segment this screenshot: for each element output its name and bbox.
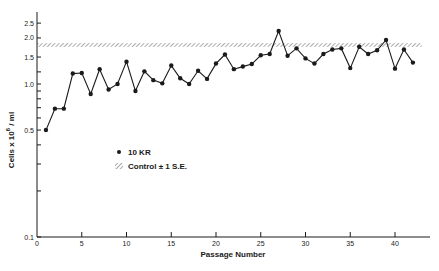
- legend-label-control: Control ± 1 S.E.: [128, 162, 187, 171]
- x-tick-label: 40: [391, 240, 399, 247]
- x-tick-label: 20: [212, 240, 220, 247]
- x-tick-label: 10: [123, 240, 131, 247]
- x-tick-label: 30: [302, 240, 310, 247]
- chart-svg: 0.10.51.01.52.02.50510152025303540 10 KR…: [0, 0, 439, 271]
- data-point: [151, 78, 155, 82]
- data-point: [348, 66, 352, 70]
- data-point: [89, 92, 93, 96]
- data-point: [196, 69, 200, 73]
- data-point: [62, 106, 66, 110]
- data-point: [80, 71, 84, 75]
- control-band: [37, 43, 422, 47]
- data-point: [366, 52, 370, 56]
- data-point: [71, 71, 75, 75]
- data-point: [402, 47, 406, 51]
- legend-label-10kr: 10 KR: [128, 148, 151, 157]
- data-point: [285, 54, 289, 58]
- control-band-rect: [37, 43, 422, 47]
- data-point: [330, 47, 334, 51]
- legend-marker-icon: [117, 150, 121, 154]
- axes: 0.10.51.01.52.02.50510152025303540: [24, 12, 430, 247]
- y-axis-title: Cells x 106 / ml: [5, 112, 16, 168]
- x-tick-label: 5: [80, 240, 84, 247]
- data-point: [357, 45, 361, 49]
- data-point: [205, 77, 209, 81]
- data-point: [250, 62, 254, 66]
- y-tick-label: 1.0: [24, 81, 34, 88]
- data-point: [259, 53, 263, 57]
- data-point: [169, 63, 173, 67]
- data-point: [312, 61, 316, 65]
- data-point: [160, 81, 164, 85]
- y-tick-label: 0.1: [24, 234, 34, 241]
- data-point: [106, 87, 110, 91]
- y-tick-label: 2.5: [24, 20, 34, 27]
- x-tick-label: 15: [167, 240, 175, 247]
- data-point: [97, 67, 101, 71]
- data-point: [375, 48, 379, 52]
- y-tick-label: 2.0: [24, 34, 34, 41]
- data-point: [294, 46, 298, 50]
- y-axis-title-tail: / ml: [7, 112, 16, 128]
- data-point: [393, 66, 397, 70]
- data-point: [339, 46, 343, 50]
- legend: 10 KR Control ± 1 S.E.: [115, 148, 187, 171]
- data-point: [241, 64, 245, 68]
- y-tick-label: 1.5: [24, 54, 34, 61]
- data-point: [232, 67, 236, 71]
- data-point: [53, 106, 57, 110]
- data-point: [133, 89, 137, 93]
- svg-text:Cells x 106 / ml: Cells x 106 / ml: [5, 112, 16, 168]
- y-tick-label: 0.5: [24, 127, 34, 134]
- data-point: [321, 52, 325, 56]
- data-point: [268, 52, 272, 56]
- x-tick-label: 25: [257, 240, 265, 247]
- data-point: [178, 76, 182, 80]
- data-point: [276, 29, 280, 33]
- x-tick-label: 0: [35, 240, 39, 247]
- legend-hatch-icon: [115, 163, 123, 169]
- data-point: [303, 56, 307, 60]
- data-point: [187, 82, 191, 86]
- data-point: [214, 61, 218, 65]
- data-point: [223, 52, 227, 56]
- data-point: [411, 60, 415, 64]
- x-axis-title: Passage Number: [201, 250, 266, 259]
- data-point: [142, 69, 146, 73]
- chart-figure: 0.10.51.01.52.02.50510152025303540 10 KR…: [0, 0, 439, 271]
- data-point: [384, 38, 388, 42]
- data-point: [115, 82, 119, 86]
- y-axis-title-main: Cells x 10: [7, 131, 16, 168]
- data-point: [44, 128, 48, 132]
- data-point: [124, 59, 128, 63]
- x-tick-label: 35: [346, 240, 354, 247]
